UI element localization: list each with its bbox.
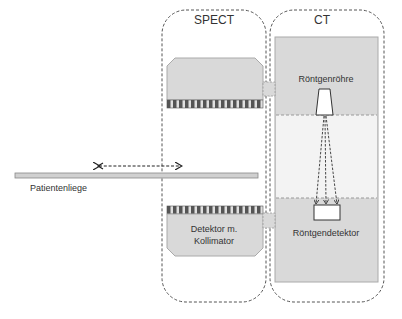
connector-bottom (263, 213, 275, 228)
xray-tube (316, 89, 333, 115)
detector-collimator-label-2: Kollimator (194, 236, 234, 246)
detector-collimator-label-1: Detektor m. (191, 224, 238, 234)
ct-bore (276, 115, 377, 198)
connector-top (263, 82, 275, 96)
spect-title: SPECT (194, 13, 235, 27)
xray-detector (314, 205, 340, 220)
spect-ct-diagram: SPECT CT Röntgenröhre Röntgendetektor De… (0, 0, 402, 319)
table-movement-arrow (98, 163, 181, 169)
bottom-collimator (167, 206, 263, 214)
xray-detector-label: Röntgendetektor (293, 228, 360, 238)
ct-title: CT (314, 13, 331, 27)
spect-top-detector (167, 58, 263, 108)
top-collimator (167, 100, 263, 108)
spect-enclosure (162, 10, 266, 302)
patient-table (15, 173, 258, 178)
xray-tube-label: Röntgenröhre (298, 74, 353, 84)
patient-table-label: Patientenliege (30, 183, 87, 193)
